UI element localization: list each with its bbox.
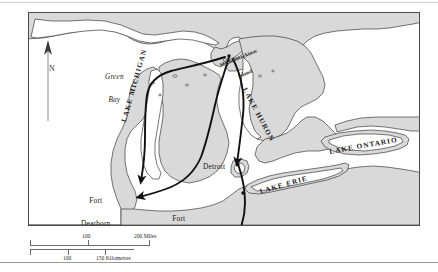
michilimackinac-line1: Michilimackinac (219, 48, 258, 68)
green-bay-label: Green Bay (105, 59, 124, 120)
scale-miles-tick-200 (149, 240, 150, 246)
scale-miles-bar (30, 245, 150, 246)
fort-dearborn-line1: Fort (73, 197, 119, 205)
fort-meigs-label: Fort Meigs (169, 199, 188, 226)
green-bay-line1: Green (105, 74, 124, 82)
scale-miles-label-100: 100 (82, 233, 90, 239)
route-node-detroit (236, 163, 239, 166)
fort-dearborn-line2: Dearborn (73, 220, 119, 226)
route-detroit-to-piqua (239, 167, 245, 225)
fort-dearborn-label: Fort Dearborn (August 1812) (73, 181, 119, 226)
page-bottom-rule (0, 262, 438, 263)
michilimackinac-line2: Island (226, 64, 265, 84)
north-arrow-letter: N (49, 64, 55, 73)
scale-km-tick-0 (30, 249, 31, 255)
scale-miles-label-200: 200 Miles (134, 233, 157, 239)
scale-miles-tick-0 (30, 240, 31, 246)
north-arrow: N (37, 37, 61, 123)
route-node-fort-meigs (241, 191, 244, 194)
scale-km-bar (30, 249, 134, 250)
scale-bar: 100 200 Miles 100 150 Kilometres (30, 233, 152, 263)
map-root: Green Bay LAKE MICHIGAN LAKE HURON LAKE … (0, 0, 438, 272)
page-top-rule (0, 2, 438, 3)
scale-miles-tick-100 (88, 240, 89, 246)
detroit-label: Detroit (203, 163, 225, 171)
map-frame: Green Bay LAKE MICHIGAN LAKE HURON LAKE … (28, 12, 420, 226)
route-michigan-east-shore (139, 57, 229, 197)
fort-meigs-line1: Fort (169, 215, 188, 223)
green-bay-line2: Bay (105, 97, 124, 105)
scale-km-label-150: 150 Kilometres (96, 255, 131, 261)
scale-km-label-100: 100 (63, 255, 71, 261)
